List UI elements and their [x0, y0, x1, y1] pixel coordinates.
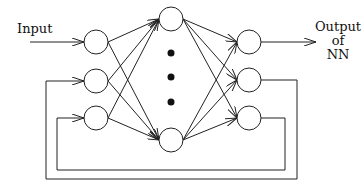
output-label-line1: Output — [315, 19, 362, 34]
ellipsis-dot-icon — [168, 74, 175, 81]
hidden-node-top — [159, 7, 183, 31]
output-node-2 — [237, 68, 261, 92]
output-node-1 — [237, 30, 261, 54]
input-label: Input — [17, 21, 53, 36]
hidden-node-bottom — [159, 128, 183, 152]
rnn-diagram: Input Output of NN — [0, 0, 364, 184]
input-node-3 — [84, 106, 108, 130]
output-label-line2: of — [332, 33, 346, 48]
output-node-3 — [237, 106, 261, 130]
input-node-2 — [84, 69, 108, 93]
ellipsis-dot-icon — [168, 50, 175, 57]
ellipsis-dot-icon — [168, 99, 175, 106]
input-hidden-edges — [108, 19, 159, 140]
input-node-1 — [84, 30, 108, 54]
hidden-output-edges — [183, 19, 237, 140]
output-label-line3: NN — [327, 47, 350, 62]
